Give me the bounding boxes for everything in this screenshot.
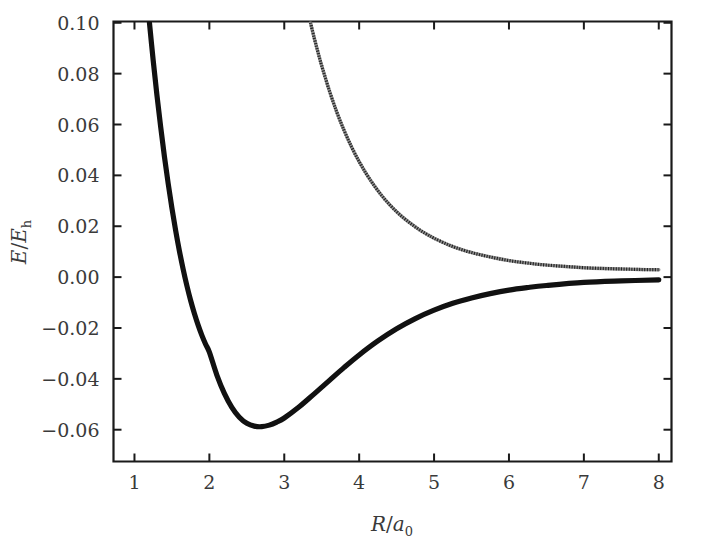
x-tick-label: 7 (578, 471, 590, 493)
plot-frame-border (114, 22, 672, 462)
svg-text:R/a0: R/a0 (370, 512, 413, 539)
x-tick-label: 2 (203, 471, 215, 493)
y-tick-label: 0.08 (57, 63, 99, 85)
curve-bonding-state (149, 23, 658, 427)
potential-energy-curve-figure: 123456780.100.080.060.040.020.00−0.02−0.… (0, 0, 706, 543)
x-axis-title-symbol: R (370, 512, 386, 536)
axis-tick-labels: 123456780.100.080.060.040.020.00−0.02−0.… (41, 12, 665, 493)
y-tick-label: 0.00 (57, 266, 99, 288)
y-axis-title-numerator: E (7, 249, 31, 265)
y-axis-title-subscript: h (19, 219, 34, 228)
x-tick-label: 3 (278, 471, 290, 493)
y-axis-title-denominator: E (7, 228, 31, 244)
y-tick-label: 0.02 (57, 215, 99, 237)
x-tick-label: 8 (653, 471, 665, 493)
x-axis-title: R/a0 (370, 512, 413, 539)
curve-antibonding-state (310, 23, 658, 270)
y-tick-label: 0.04 (57, 164, 99, 186)
x-tick-label: 4 (353, 471, 365, 493)
y-axis-title: E/Eh (7, 219, 34, 265)
plot-frame (114, 22, 672, 462)
x-tick-label: 6 (503, 471, 515, 493)
axis-ticks (114, 22, 672, 462)
x-tick-label: 5 (428, 471, 440, 493)
y-tick-label: −0.04 (41, 368, 99, 390)
curve-antibonding-state-texture (310, 23, 658, 270)
data-curves (149, 23, 658, 427)
y-tick-label: 0.10 (57, 12, 99, 34)
x-tick-label: 1 (128, 471, 140, 493)
chart-canvas: 123456780.100.080.060.040.020.00−0.02−0.… (0, 0, 706, 543)
svg-text:E/Eh: E/Eh (7, 219, 34, 265)
x-axis-title-subscript: 0 (405, 524, 413, 539)
y-tick-label: −0.02 (41, 317, 99, 339)
y-tick-label: −0.06 (41, 419, 99, 441)
y-tick-label: 0.06 (57, 114, 99, 136)
x-axis-title-denominator: a (393, 512, 405, 536)
